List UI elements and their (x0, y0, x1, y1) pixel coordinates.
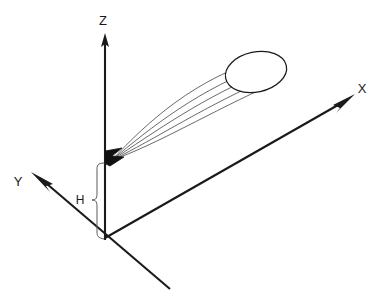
z-axis-group: Z (99, 13, 109, 240)
x-axis-label: X (358, 81, 367, 96)
trajectory-line-5 (112, 84, 273, 160)
x-axis-line (105, 101, 345, 238)
x-axis-arrowhead (333, 94, 355, 113)
height-dimension-group: H (76, 163, 104, 239)
diagram-canvas: Y X Z H (0, 0, 381, 298)
height-label: H (76, 193, 85, 207)
y-axis-arrowhead (31, 172, 53, 192)
target-ellipse (222, 46, 291, 98)
x-axis-group: X (105, 81, 367, 238)
y-axis-label: Y (14, 174, 23, 189)
y-axis-group: Y (14, 172, 170, 289)
target-group (222, 46, 291, 98)
technical-diagram-svg: Y X Z H (0, 0, 381, 298)
z-axis-label: Z (99, 13, 107, 28)
